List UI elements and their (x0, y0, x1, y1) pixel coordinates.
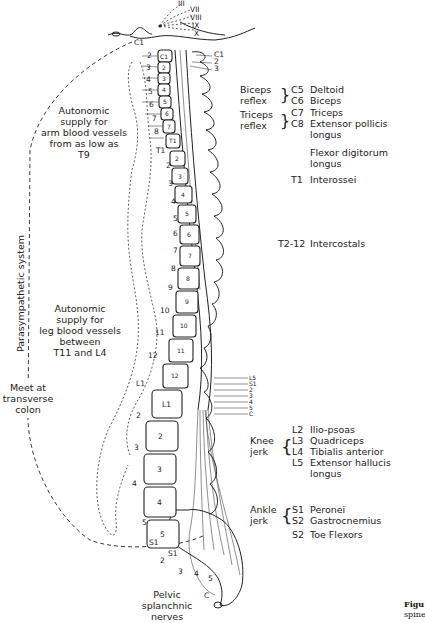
svg-text:X: X (194, 29, 199, 38)
svg-text:transverse: transverse (3, 393, 54, 404)
svg-text:7: 7 (167, 123, 171, 130)
svg-text:3: 3 (146, 63, 151, 72)
svg-text:3: 3 (178, 173, 182, 180)
lower-limb-myotomes: L2 Ilio-psoas Knee jerk { L3 Quadriceps … (249, 424, 391, 540)
upper-limb-myotomes: Biceps reflex } Triceps reflex } C5 Delt… (239, 84, 388, 185)
svg-text:leg blood vessels: leg blood vessels (39, 325, 121, 336)
svg-text:C1: C1 (160, 53, 168, 60)
svg-text:4: 4 (171, 197, 176, 206)
svg-text:T9: T9 (77, 149, 90, 160)
svg-text:nerves: nerves (151, 611, 183, 622)
svg-text:5: 5 (142, 518, 147, 527)
svg-text:10: 10 (180, 322, 188, 329)
autonomic-arm-label: Autonomic supply for arm blood vessels f… (41, 105, 127, 160)
lumbar-vertebrae (144, 390, 182, 548)
svg-text:L3: L3 (292, 435, 303, 446)
svg-text:arm blood vessels: arm blood vessels (41, 127, 127, 138)
svg-text:7: 7 (152, 114, 157, 123)
svg-text:12: 12 (148, 351, 158, 360)
svg-text:2: 2 (162, 64, 166, 71)
svg-text:3: 3 (162, 75, 166, 82)
svg-text:Triceps: Triceps (309, 107, 343, 118)
svg-text:6: 6 (165, 110, 169, 117)
svg-text:Ilio-psoas: Ilio-psoas (310, 424, 355, 435)
pelvic-splanchnic-label: Pelvic splanchnic nerves (142, 589, 193, 622)
svg-text:5: 5 (163, 98, 167, 105)
svg-text:from as low as: from as low as (50, 138, 119, 149)
svg-text:2: 2 (136, 411, 141, 420)
svg-text:Interossei: Interossei (310, 174, 356, 185)
svg-text:splanchnic: splanchnic (142, 600, 193, 611)
svg-text:Knee: Knee (250, 435, 274, 446)
svg-text:L1: L1 (136, 379, 145, 388)
parasympathetic-label: Parasympathetic system (15, 235, 26, 352)
svg-text:reflex: reflex (240, 120, 267, 131)
svg-text:reflex: reflex (240, 95, 267, 106)
svg-text:12: 12 (171, 372, 179, 379)
cranial-nerve-labels: III VII VIII IX X (178, 0, 202, 38)
svg-text:3: 3 (214, 64, 219, 73)
svg-text:4: 4 (146, 75, 151, 84)
svg-text:jerk: jerk (249, 446, 268, 457)
svg-text:Triceps: Triceps (239, 109, 273, 120)
svg-text:spine: spine (404, 610, 425, 619)
svg-text:4: 4 (181, 191, 185, 198)
spinal-cord-diagram: III VII VIII IX X C1 C1 2 3 (0, 0, 425, 623)
svg-text:2: 2 (175, 155, 179, 162)
svg-text:10: 10 (160, 306, 170, 315)
svg-text:C8: C8 (291, 118, 304, 129)
svg-text:Autonomic: Autonomic (54, 303, 105, 314)
svg-text:T11 and L4: T11 and L4 (52, 347, 106, 358)
svg-text:Autonomic: Autonomic (58, 105, 109, 116)
svg-text:Figu: Figu (404, 599, 424, 609)
svg-text:C: C (204, 591, 209, 600)
svg-text:3: 3 (178, 567, 183, 576)
svg-text:between: between (59, 336, 100, 347)
svg-text:longus: longus (310, 129, 342, 140)
svg-text:7: 7 (173, 246, 178, 255)
cauda-equina-labels: L5 S1 2 3 4 5 C (214, 374, 257, 417)
svg-text:L5: L5 (292, 457, 303, 468)
top-right-cervical-labels: C1 2 3 (190, 50, 224, 73)
svg-text:11: 11 (155, 328, 165, 337)
figure-caption: Figu spine (404, 599, 425, 619)
svg-text:5: 5 (208, 574, 213, 583)
svg-text:S2: S2 (292, 529, 304, 540)
svg-text:supply for: supply for (60, 116, 107, 127)
svg-text:4: 4 (132, 479, 137, 488)
svg-text:3: 3 (157, 465, 162, 474)
svg-text:7: 7 (188, 252, 192, 259)
svg-text:6: 6 (173, 229, 178, 238)
svg-text:longus: longus (310, 158, 342, 169)
svg-text:Pelvic: Pelvic (153, 589, 180, 600)
svg-text:Ankle: Ankle (250, 504, 277, 515)
svg-text:S1: S1 (292, 504, 304, 515)
svg-text:C7: C7 (291, 107, 304, 118)
svg-text:T1: T1 (290, 174, 303, 185)
svg-text:4: 4 (162, 86, 166, 93)
svg-text:Extensor pollicis: Extensor pollicis (310, 118, 388, 129)
left-root-labels-cervical: 2 3 4 5 6 7 8 (146, 51, 159, 136)
svg-text:jerk: jerk (249, 515, 268, 526)
svg-text:5: 5 (185, 210, 189, 217)
svg-text:T1: T1 (155, 146, 166, 155)
svg-text:8: 8 (186, 275, 190, 282)
svg-text:Extensor hallucis: Extensor hallucis (310, 457, 391, 468)
svg-text:8: 8 (154, 127, 159, 136)
svg-text:2: 2 (166, 161, 171, 170)
svg-text:{: { (281, 505, 292, 526)
svg-text:L1: L1 (162, 400, 171, 409)
svg-text:S1: S1 (168, 549, 178, 558)
svg-text:T1: T1 (168, 137, 177, 144)
svg-text:{: { (281, 436, 292, 457)
root-label-c1-top: C1 (134, 38, 144, 47)
svg-text:2: 2 (160, 556, 165, 565)
svg-text:3: 3 (134, 443, 139, 452)
svg-text:3: 3 (168, 179, 173, 188)
svg-text:9: 9 (168, 283, 173, 292)
svg-text:colon: colon (15, 404, 41, 415)
svg-text:8: 8 (171, 264, 176, 273)
svg-text:}: } (280, 111, 290, 130)
trunk-myotomes: T2-12 Intercostals (277, 238, 365, 249)
svg-text:6: 6 (187, 231, 191, 238)
